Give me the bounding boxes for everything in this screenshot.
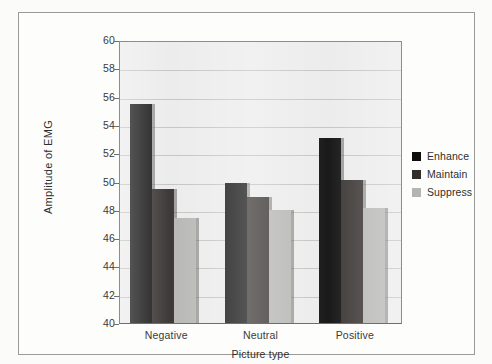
gridline <box>120 155 401 156</box>
y-axis-tick-label: 40 <box>81 317 115 329</box>
legend-swatch-icon <box>412 170 421 179</box>
y-axis-tick-mark <box>114 324 119 325</box>
bar-positive-maintain <box>341 180 363 323</box>
gridline <box>120 127 401 128</box>
legend-swatch-icon <box>412 188 421 197</box>
bar-neutral-enhance <box>225 183 247 323</box>
legend-label: Maintain <box>427 168 468 180</box>
y-axis-tick-label: 54 <box>81 119 115 131</box>
chart-legend: EnhanceMaintainSuppress <box>412 147 490 201</box>
y-axis-tick-label: 52 <box>81 147 115 159</box>
y-axis-tick-label: 44 <box>81 260 115 272</box>
y-axis-title: Amplitude of EMG <box>42 72 54 262</box>
plot-area <box>119 41 402 324</box>
bar-neutral-maintain <box>247 197 269 323</box>
y-axis-tick-label: 58 <box>81 62 115 74</box>
gridline <box>120 99 401 100</box>
bar-positive-enhance <box>319 138 341 323</box>
legend-label: Enhance <box>427 150 469 162</box>
bar-positive-suppress <box>363 208 385 323</box>
y-axis-tick-label: 56 <box>81 91 115 103</box>
bar-negative-maintain <box>152 189 174 323</box>
y-axis-tick-label: 50 <box>81 176 115 188</box>
y-axis-tick-label: 60 <box>81 34 115 46</box>
legend-item-maintain[interactable]: Maintain <box>412 165 490 183</box>
legend-label: Suppress <box>427 186 472 198</box>
figure-frame: 6058565452504846444240 Amplitude of EMG … <box>18 12 475 355</box>
gridline <box>120 70 401 71</box>
x-axis-tick-labels: NegativeNeutralPositive <box>119 329 402 345</box>
bar-neutral-suppress <box>269 210 291 323</box>
legend-item-suppress[interactable]: Suppress <box>412 183 490 201</box>
x-axis-tick-label: Positive <box>315 329 395 341</box>
y-axis-tick-labels: 6058565452504846444240 <box>77 41 115 324</box>
bar-negative-suppress <box>174 218 196 323</box>
page-background: 6058565452504846444240 Amplitude of EMG … <box>0 0 492 364</box>
y-axis-tick-label: 46 <box>81 232 115 244</box>
x-axis-tick-label: Neutral <box>221 329 301 341</box>
y-axis-tick-label: 42 <box>81 289 115 301</box>
legend-item-enhance[interactable]: Enhance <box>412 147 490 165</box>
y-axis-tick-label: 48 <box>81 204 115 216</box>
x-axis-title: Picture type <box>119 348 402 360</box>
legend-swatch-icon <box>412 152 421 161</box>
bar-negative-enhance <box>130 104 152 323</box>
x-axis-tick-label: Negative <box>126 329 206 341</box>
